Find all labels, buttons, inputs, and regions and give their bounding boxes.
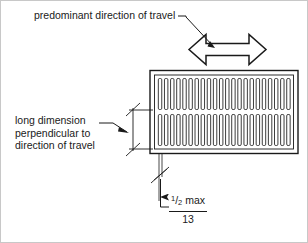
grating-slot <box>183 79 186 110</box>
grating-slot <box>268 115 271 146</box>
grating-assembly <box>150 71 298 154</box>
grating-slot <box>250 115 253 146</box>
grating-slot <box>177 79 180 110</box>
grating-slot <box>262 79 265 110</box>
grating-slot <box>226 79 229 110</box>
double-headed-arrow-icon <box>189 35 266 65</box>
grating-slot <box>164 79 167 110</box>
dimension-callout: 1/2 max 13 <box>169 193 207 225</box>
grating-slot <box>189 79 192 110</box>
grating-slot <box>275 115 278 146</box>
grating-slot <box>287 115 290 146</box>
grating-slot <box>195 115 198 146</box>
fraction-denominator: 2 <box>178 198 182 207</box>
dimension-imperial-value: 1/2 max <box>169 193 207 212</box>
long-dimension-line-3: direction of travel <box>15 139 95 152</box>
grating-slot <box>256 79 259 110</box>
grating-slot <box>238 115 241 146</box>
left-dimension-group <box>126 103 153 156</box>
predominant-direction-text: predominant direction of travel <box>34 9 175 21</box>
figure-container: predominant direction of travel long dim… <box>0 0 308 243</box>
grating-slot <box>281 79 284 110</box>
grating-slot <box>262 115 265 146</box>
grating-slot <box>232 79 235 110</box>
grating-slot <box>171 79 174 110</box>
fraction-one-half: 1/2 <box>171 193 182 210</box>
long-dimension-line-2: perpendicular to <box>15 127 95 140</box>
long-dimension-line-1: long dimension <box>15 114 95 127</box>
grating-slot <box>195 79 198 110</box>
grating-slot <box>219 79 222 110</box>
grating-slot <box>244 115 247 146</box>
grating-slot <box>238 79 241 110</box>
grating-slot <box>201 115 204 146</box>
grating-slot <box>226 115 229 146</box>
dimension-max-note: max <box>185 194 205 206</box>
grating-slot <box>207 115 210 146</box>
grating-slot <box>219 115 222 146</box>
grating-slot <box>171 115 174 146</box>
grating-slot <box>213 79 216 110</box>
dimension-metric-value: 13 <box>169 212 207 226</box>
predominant-direction-label: predominant direction of travel <box>34 9 175 22</box>
long-dimension-label: long dimension perpendicular to directio… <box>15 114 95 152</box>
bottom-dimension-group <box>151 154 169 207</box>
grating-slot <box>256 115 259 146</box>
grating-slot <box>213 115 216 146</box>
left-leader-line <box>99 123 129 133</box>
grating-slot <box>275 79 278 110</box>
grating-slot <box>250 79 253 110</box>
grating-slot <box>281 115 284 146</box>
grating-slot <box>164 115 167 146</box>
grating-slot <box>201 79 204 110</box>
grating-slot <box>189 115 192 146</box>
grating-slot <box>268 79 271 110</box>
grating-slot <box>183 115 186 146</box>
grating-slot <box>244 79 247 110</box>
grating-slot <box>158 79 161 110</box>
grating-slot <box>158 115 161 146</box>
grating-slot <box>287 79 290 110</box>
grating-slot <box>177 115 180 146</box>
tick-mark-icon <box>154 169 167 180</box>
grating-slot <box>207 79 210 110</box>
grating-slot <box>232 115 235 146</box>
